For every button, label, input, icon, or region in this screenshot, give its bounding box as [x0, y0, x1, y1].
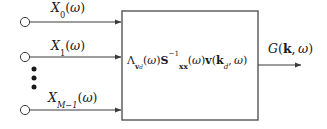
output-label: G(k, ω): [268, 43, 313, 56]
input-terminal-m-1: [20, 105, 29, 114]
input-terminal-1: [20, 52, 29, 61]
vertical-ellipsis-icon: [32, 67, 37, 90]
block-formula: Λvd(ω)S−1xx(ω)v(kd, ω): [127, 55, 247, 66]
block-diagram-figure: X0(ω) X1(ω) XM−1(ω) Λvd(ω)S−1xx(ω)v(kd, …: [0, 0, 327, 129]
input-label-m-1: XM−1(ω): [48, 92, 98, 105]
input-label-1: X1(ω): [51, 40, 85, 53]
input-label-0: X0(ω): [51, 2, 85, 15]
input-terminal-0: [20, 17, 29, 26]
